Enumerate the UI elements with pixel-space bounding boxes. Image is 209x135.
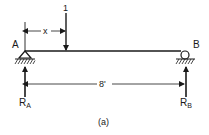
x-dimension-label: x — [43, 26, 48, 36]
ground-hatch-icon — [15, 59, 35, 64]
support-a-label: A — [12, 39, 19, 50]
pin-support-a — [15, 51, 35, 64]
roller-support-b — [176, 51, 195, 64]
reaction-a-label: RA — [19, 97, 31, 109]
beam-diagram: A B 1 x — [0, 0, 209, 135]
load-label: 1 — [63, 3, 68, 13]
figure-caption: (a) — [98, 117, 109, 127]
support-b-label: B — [193, 39, 200, 50]
span-label: 8' — [99, 79, 106, 89]
ground-hatch-icon — [176, 59, 194, 64]
reaction-b-label: RB — [180, 97, 192, 109]
